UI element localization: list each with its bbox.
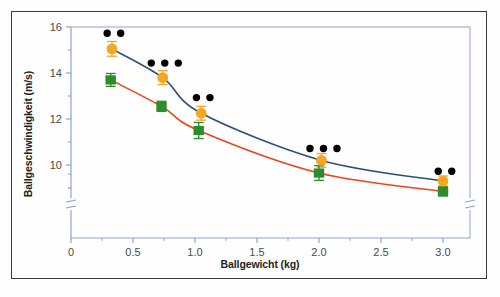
significance-dot [448,168,455,175]
data-point-square [105,75,115,84]
significance-dot [175,59,182,66]
y-axis-break-mark [66,206,76,208]
significance-dot [306,145,313,152]
significance-dot [103,30,110,37]
error-bars-group [106,41,448,196]
significance-dot [161,59,168,66]
y-tick-label: 10 [50,159,62,171]
right-axis-break-mark [465,206,475,208]
significance-dots-group [103,30,455,175]
x-tick-label: 0 [68,246,74,258]
x-axis-label: Ballgewicht (kg) [120,258,400,270]
data-point-circle [157,72,168,83]
y-tick-label: 14 [50,67,62,79]
x-tick-label: 1.0 [187,246,202,258]
data-point-circle [107,43,118,54]
data-points-group [105,43,448,196]
x-tick-label: 3.0 [435,246,450,258]
significance-dot [320,145,327,152]
y-tick-label: 16 [50,21,62,33]
data-point-square [156,102,166,111]
significance-dot [435,168,442,175]
figure-container: 1012141600.51.01.52.02.53.0 Ballgeschwin… [0,0,500,297]
significance-dot [148,59,155,66]
axes-group [66,27,475,243]
data-point-square [314,168,324,177]
x-tick-label: 2.0 [311,246,326,258]
data-point-circle [196,108,207,119]
x-tick-label: 0.5 [125,246,140,258]
x-tick-label: 1.5 [249,246,264,258]
significance-dot [333,145,340,152]
scatter-chart: 1012141600.51.01.52.02.53.0 [0,0,500,297]
plot-area: 1012141600.51.01.52.02.53.0 [0,0,500,297]
data-point-circle [316,155,327,166]
significance-dot [193,94,200,101]
y-tick-label: 12 [50,113,62,125]
significance-dot [206,94,213,101]
right-axis-break-mark [465,200,475,202]
x-tick-label: 2.5 [373,246,388,258]
significance-dot [117,30,124,37]
y-axis-label: Ballgeschwindigkeit (m/s) [22,54,34,214]
data-point-circle [438,176,449,187]
data-point-square [438,187,448,196]
y-axis-break-mark [66,200,76,202]
data-point-square [194,126,204,135]
